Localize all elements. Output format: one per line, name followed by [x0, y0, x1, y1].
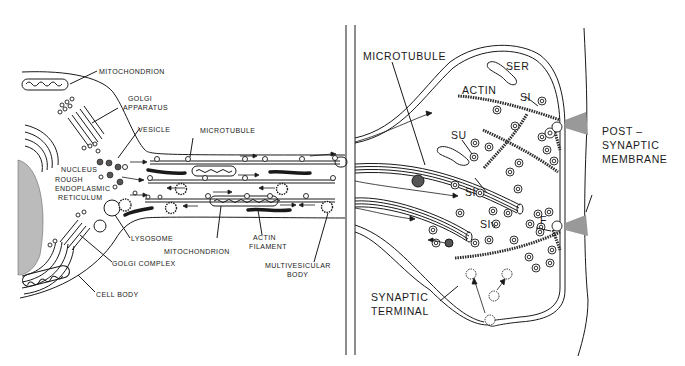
- label-si-1: SI: [520, 91, 531, 103]
- coated-vesicles: [466, 269, 512, 325]
- label-rough-er-2: ENDOPLASMIC: [55, 185, 110, 192]
- label-post-synaptic-1: POST –: [602, 125, 643, 137]
- golgi-complex: [48, 210, 90, 250]
- label-microtubule-left: MICROTUBULE: [200, 127, 255, 134]
- label-synaptic-terminal-2: TERMINAL: [371, 305, 429, 317]
- right-labels: MICROTUBULE SER ACTIN SI SU SI SI F POST…: [363, 50, 667, 317]
- label-post-synaptic-3: MEMBRANE: [602, 153, 667, 165]
- transport-vesicles: [146, 156, 338, 200]
- label-si-3: SI: [480, 218, 491, 230]
- label-post-synaptic-2: SYNAPTIC: [602, 139, 659, 151]
- terminal-membrane-outer: [355, 45, 565, 326]
- label-ser: SER: [506, 60, 529, 72]
- left-panel: MITOCHONDRION GOLGI APPARATUS VESICLE MI…: [18, 68, 347, 298]
- label-mitochondrion-top: MITOCHONDRION: [99, 68, 165, 75]
- mitochondrion-top: [22, 79, 68, 90]
- label-rough-er-1: ROUGH: [55, 176, 83, 183]
- label-nucleus: NUCLEUS: [61, 166, 97, 173]
- label-vesicle: VESICLE: [138, 126, 170, 133]
- label-actin-filament-2: FILAMENT: [249, 243, 287, 250]
- label-synaptic-terminal-1: SYNAPTIC: [371, 291, 428, 303]
- post-synaptic-membrane: [578, 28, 588, 356]
- label-cell-body: CELL BODY: [96, 291, 139, 298]
- panel-divider: [346, 25, 355, 355]
- right-panel: MICROTUBULE SER ACTIN SI SU SI SI F POST…: [355, 28, 667, 356]
- terminal-actin: [455, 96, 560, 258]
- label-microtubule-right: MICROTUBULE: [363, 50, 446, 62]
- golgi-apparatus: [58, 97, 104, 153]
- label-golgi-apparatus-2: APPARATUS: [123, 104, 168, 111]
- label-su: SU: [451, 129, 467, 141]
- label-lysosome: LYSOSOME: [131, 235, 173, 242]
- label-golgi-apparatus-1: GOLGI: [128, 95, 152, 102]
- cell-body-membrane-lower: [20, 217, 345, 298]
- dense-core-vesicles: [412, 175, 453, 247]
- label-mvb-1: MULTIVESICULAR: [265, 262, 331, 269]
- left-leader-lines: [70, 71, 328, 292]
- docked-vesicle-top: [552, 122, 562, 132]
- label-si-2: SI: [465, 186, 476, 198]
- docked-vesicle-bottom: [552, 221, 562, 231]
- label-f: F: [540, 214, 547, 226]
- smooth-er: [437, 62, 516, 166]
- label-mitochondrion-bottom: MITOCHONDRION: [164, 248, 230, 255]
- terminal-microtubules: [355, 163, 523, 242]
- label-rough-er-3: RETICULUM: [58, 194, 102, 201]
- label-actin-filament-1: ACTIN: [253, 234, 276, 241]
- label-mvb-2: BODY: [287, 271, 308, 278]
- neuron-diagram: MITOCHONDRION GOLGI APPARATUS VESICLE MI…: [0, 0, 685, 366]
- nucleus: [18, 160, 43, 275]
- synaptic-density-bottom: [565, 215, 588, 236]
- label-golgi-complex: GOLGI COMPLEX: [112, 260, 176, 267]
- synaptic-density-top: [565, 112, 588, 135]
- label-actin: ACTIN: [462, 84, 497, 96]
